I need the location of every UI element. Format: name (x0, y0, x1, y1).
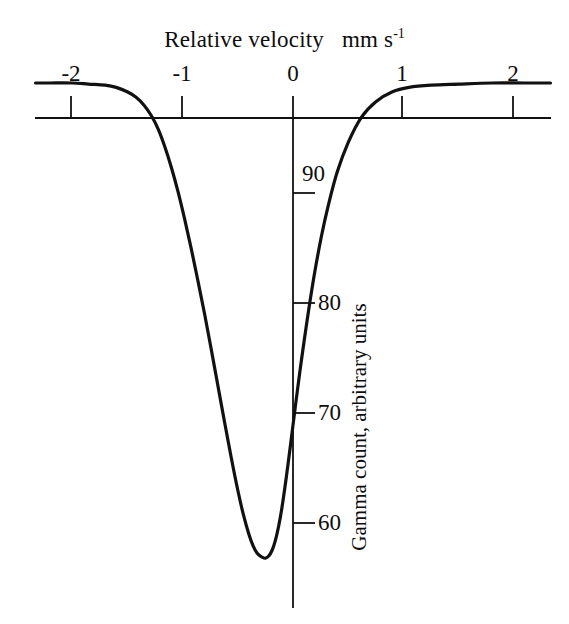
plot-area (0, 0, 569, 624)
mossbauer-spectrum-figure: Relative velocity mm s-1 -2 -1 0 1 2 90 … (0, 0, 569, 624)
